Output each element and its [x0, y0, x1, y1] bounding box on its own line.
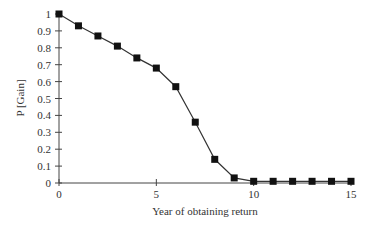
x-tick-label: 5 — [154, 188, 160, 200]
y-tick-label: 0.1 — [37, 160, 51, 172]
data-point-marker — [153, 65, 160, 72]
x-tick-label: 15 — [346, 188, 358, 200]
x-tick-label: 10 — [248, 188, 260, 200]
y-tick-label: 1 — [46, 8, 52, 20]
data-point-marker — [270, 178, 277, 185]
data-point-marker — [133, 54, 140, 61]
y-tick-label: 0.6 — [37, 76, 51, 88]
data-point-marker — [56, 11, 63, 18]
data-point-marker — [250, 178, 257, 185]
y-axis-label: P [Gain] — [14, 79, 26, 116]
data-point-marker — [172, 83, 179, 90]
line-chart: 00.10.20.30.40.50.60.70.80.91051015 Year… — [0, 0, 373, 227]
series-line — [59, 14, 351, 181]
x-axis-label: Year of obtaining return — [152, 205, 258, 217]
y-tick-label: 0.9 — [37, 25, 51, 37]
data-point-marker — [192, 119, 199, 126]
data-point-marker — [211, 156, 218, 163]
data-point-marker — [309, 178, 316, 185]
data-point-marker — [231, 174, 238, 181]
data-point-marker — [75, 22, 82, 29]
y-tick-label: 0.8 — [37, 42, 51, 54]
y-tick-label: 0 — [46, 177, 52, 189]
data-point-marker — [94, 32, 101, 39]
x-tick-label: 0 — [56, 188, 62, 200]
y-tick-label: 0.7 — [37, 59, 51, 71]
y-tick-label: 0.4 — [37, 109, 51, 121]
data-point-marker — [289, 178, 296, 185]
data-series — [56, 11, 355, 185]
y-tick-label: 0.2 — [37, 143, 51, 155]
y-tick-label: 0.5 — [37, 93, 51, 105]
axes: 00.10.20.30.40.50.60.70.80.91051015 — [37, 8, 357, 200]
y-tick-label: 0.3 — [37, 126, 51, 138]
data-point-marker — [114, 43, 121, 50]
data-point-marker — [328, 178, 335, 185]
data-point-marker — [348, 178, 355, 185]
